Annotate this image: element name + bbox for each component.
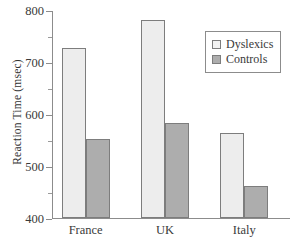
legend-swatch-dyslexics-icon <box>212 40 221 49</box>
y-tick-mark-icon <box>46 63 52 64</box>
bar-uk-controls <box>165 123 189 218</box>
y-minor-tick-mark-icon <box>48 37 52 38</box>
legend-label-controls: Controls <box>226 52 267 67</box>
bar-uk-dyslexics <box>141 20 165 218</box>
y-tick-label: 600 <box>25 108 44 123</box>
y-tick-mark-icon <box>46 167 52 168</box>
y-tick-mark-icon <box>46 11 52 12</box>
x-axis-label-uk: UK <box>156 223 174 238</box>
legend-swatch-controls-icon <box>212 55 221 64</box>
y-tick-label: 700 <box>25 56 44 71</box>
x-axis-line <box>52 218 290 219</box>
y-tick-label: 500 <box>25 160 44 175</box>
legend-item-controls: Controls <box>212 52 273 67</box>
x-axis-label-france: France <box>69 223 103 238</box>
y-tick-mark-icon <box>46 115 52 116</box>
y-minor-tick-mark-icon <box>48 89 52 90</box>
y-axis-title: Reaction Time (msec) <box>11 32 23 192</box>
legend-item-dyslexics: Dyslexics <box>212 37 273 52</box>
y-axis-line <box>52 11 53 219</box>
y-tick-label: 800 <box>25 4 44 19</box>
bar-france-dyslexics <box>62 48 86 218</box>
bar-france-controls <box>86 139 110 218</box>
bar-italy-controls <box>244 186 268 218</box>
y-minor-tick-mark-icon <box>48 141 52 142</box>
y-tick-mark-icon <box>46 219 52 220</box>
reaction-time-bar-chart: Reaction Time (msec) 400500600700800 Fra… <box>0 0 292 239</box>
legend-label-dyslexics: Dyslexics <box>226 37 273 52</box>
chart-legend: Dyslexics Controls <box>205 31 281 73</box>
bar-italy-dyslexics <box>220 133 244 218</box>
y-tick-label: 400 <box>25 212 44 227</box>
y-minor-tick-mark-icon <box>48 193 52 194</box>
x-axis-label-italy: Italy <box>233 223 256 238</box>
